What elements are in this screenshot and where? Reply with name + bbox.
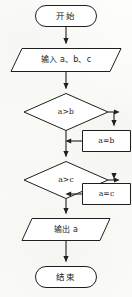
- node-output-shape: [22, 219, 110, 241]
- flowchart-diagram: 开始 输入 a、b、c a>b a=b a>c a=c 输出 a 结束: [0, 0, 132, 297]
- node-end-shape: [36, 267, 97, 288]
- node-input-shape: [11, 49, 121, 72]
- node-decision-ab-shape: [24, 94, 108, 131]
- flowchart-shape-layer: [0, 0, 132, 297]
- node-assign-ac-shape: [83, 184, 131, 205]
- node-assign-ab-shape: [83, 131, 131, 152]
- node-start-shape: [36, 6, 97, 27]
